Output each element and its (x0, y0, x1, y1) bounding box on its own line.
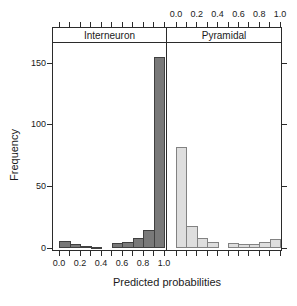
x-axis-tick-label-bottom: 0.6 (112, 258, 132, 269)
panel-divider (166, 42, 167, 251)
x-axis-tick-top (186, 22, 187, 27)
x-axis-tick-bottom (280, 251, 281, 256)
y-axis-tick-label: 150 (26, 58, 46, 69)
x-axis-tick-label-bottom: 0.2 (70, 258, 90, 269)
histogram-figure: Interneuron Pyramidal 0501001500.00.20.4… (0, 0, 297, 306)
x-axis-tick-top (228, 22, 229, 27)
histogram-bar (207, 242, 218, 248)
x-axis-tick-top (143, 22, 144, 27)
x-axis-tick-top (238, 22, 239, 27)
x-axis-tick-top (259, 22, 260, 27)
x-axis-tick-top (80, 22, 81, 27)
x-axis-tick-label-bottom: 0.4 (91, 258, 111, 269)
y-axis-title: Frequency (8, 129, 20, 181)
x-axis-tick-label-bottom: 0.8 (133, 258, 153, 269)
x-axis-tick-label-top: 1.0 (270, 9, 290, 20)
x-axis-tick-bottom (164, 251, 165, 256)
x-axis-tick-bottom (143, 251, 144, 256)
x-axis-tick-bottom (132, 251, 133, 256)
plot-area-border (52, 42, 282, 251)
x-axis-tick-label-top: 0.0 (166, 9, 186, 20)
x-axis-tick-top (176, 22, 177, 27)
y-axis-tick-label: 100 (26, 119, 46, 130)
x-axis-tick-bottom (207, 251, 208, 256)
x-axis-tick-top (164, 22, 165, 27)
x-axis-tick-bottom (122, 251, 123, 256)
x-axis-tick-top (217, 22, 218, 27)
x-axis-tick-bottom (238, 251, 239, 256)
x-axis-tick-top (90, 22, 91, 27)
x-axis-tick-bottom (248, 251, 249, 256)
x-axis-tick-top (122, 22, 123, 27)
x-axis-tick-bottom (101, 251, 102, 256)
x-axis-tick-bottom (59, 251, 60, 256)
x-axis-tick-bottom (186, 251, 187, 256)
x-axis-tick-bottom (111, 251, 112, 256)
x-axis-tick-bottom (259, 251, 260, 256)
histogram-bar (91, 247, 103, 249)
x-axis-tick-bottom (90, 251, 91, 256)
x-axis-tick-top (153, 22, 154, 27)
x-axis-tick-bottom (196, 251, 197, 256)
y-axis-tick-label: 50 (26, 181, 46, 192)
x-axis-tick-bottom (176, 251, 177, 256)
x-axis-tick-bottom (269, 251, 270, 256)
histogram-bar (154, 57, 166, 248)
panel-title-pyramidal: Pyramidal (202, 30, 246, 41)
x-axis-tick-bottom (153, 251, 154, 256)
x-axis-tick-top (269, 22, 270, 27)
x-axis-tick-label-top: 0.8 (249, 9, 269, 20)
x-axis-tick-bottom (228, 251, 229, 256)
y-axis-tick (47, 186, 52, 187)
panel-strip-interneuron: Interneuron (52, 27, 167, 43)
x-axis-tick-bottom (69, 251, 70, 256)
panel-title-interneuron: Interneuron (84, 30, 135, 41)
panel-strip-pyramidal: Pyramidal (166, 27, 282, 43)
y-axis-tick (47, 63, 52, 64)
x-axis-tick-label-top: 0.6 (228, 9, 248, 20)
x-axis-tick-top (101, 22, 102, 27)
y-axis-tick-right (282, 124, 287, 125)
x-axis-tick-label-bottom: 0.0 (49, 258, 69, 269)
x-axis-tick-top (59, 22, 60, 27)
x-axis-tick-label-top: 0.2 (187, 9, 207, 20)
x-axis-tick-top (207, 22, 208, 27)
x-axis-tick-bottom (217, 251, 218, 256)
y-axis-tick-right (282, 186, 287, 187)
x-axis-tick-top (132, 22, 133, 27)
x-axis-tick-bottom (80, 251, 81, 256)
x-axis-title: Predicted probabilities (52, 276, 282, 288)
y-axis-tick-label: 0 (26, 243, 46, 254)
histogram-bar (270, 239, 281, 248)
y-axis-tick (47, 248, 52, 249)
x-axis-tick-top (248, 22, 249, 27)
x-axis-tick-label-bottom: 1.0 (154, 258, 174, 269)
x-axis-tick-top (196, 22, 197, 27)
x-axis-tick-top (280, 22, 281, 27)
x-axis-tick-label-top: 0.4 (208, 9, 228, 20)
y-axis-tick-right (282, 248, 287, 249)
y-axis-tick-right (282, 63, 287, 64)
x-axis-tick-top (111, 22, 112, 27)
y-axis-tick (47, 124, 52, 125)
x-axis-tick-top (69, 22, 70, 27)
